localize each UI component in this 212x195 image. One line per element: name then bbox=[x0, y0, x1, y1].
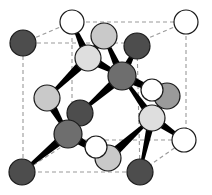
atom-mid bbox=[108, 62, 136, 90]
lattice-diagram bbox=[0, 0, 212, 195]
atom-dark bbox=[9, 159, 35, 185]
atom-dark bbox=[124, 33, 150, 59]
cell-edge bbox=[137, 43, 140, 172]
atom-mid bbox=[54, 120, 82, 148]
atom-open bbox=[174, 10, 198, 34]
atom-dark bbox=[127, 159, 153, 185]
atom-open bbox=[85, 136, 107, 158]
atom-light bbox=[34, 85, 60, 111]
atom-open bbox=[172, 128, 196, 152]
atom-open bbox=[141, 79, 163, 101]
crystal-lattice-figure bbox=[0, 0, 212, 195]
atom-light bbox=[91, 23, 117, 49]
atom-dark bbox=[10, 30, 36, 56]
atom-open bbox=[60, 10, 84, 34]
atom-pale bbox=[139, 105, 165, 131]
atom-pale bbox=[75, 45, 101, 71]
